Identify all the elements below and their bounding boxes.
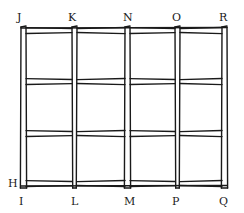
label-bottom-4: Q bbox=[219, 195, 228, 208]
rail-edge-top bbox=[130, 181, 175, 182]
label-top-0: J bbox=[16, 11, 21, 24]
post-cap-top bbox=[222, 26, 227, 27]
post-0 bbox=[20, 26, 26, 188]
post-cap-top bbox=[72, 26, 77, 27]
lattice-frame: J K N O R I L M P Q H bbox=[0, 0, 244, 213]
post-edge-right bbox=[130, 27, 131, 188]
lattice-diagram: J K N O R I L M P Q H bbox=[0, 0, 244, 213]
rail-edge-bottom bbox=[130, 33, 175, 34]
label-top-1: K bbox=[68, 11, 77, 24]
post-edge-left bbox=[175, 27, 176, 188]
label-bottom-1: L bbox=[71, 195, 79, 208]
post-2 bbox=[124, 26, 130, 188]
rail-edge-bottom bbox=[26, 84, 72, 85]
post-edge-right bbox=[179, 27, 180, 188]
label-bottom-3: P bbox=[172, 195, 180, 208]
post-edge-right bbox=[76, 27, 77, 188]
post-1 bbox=[72, 26, 77, 188]
label-bottom-2: M bbox=[124, 195, 135, 208]
rail-edge-bottom bbox=[130, 136, 175, 137]
label-top-4: R bbox=[219, 11, 228, 24]
post-edge-left bbox=[221, 27, 222, 188]
rail-edge-bottom bbox=[26, 33, 72, 34]
label-top-2: N bbox=[123, 11, 133, 24]
point-labels: J K N O R I L M P Q H bbox=[8, 11, 228, 208]
frame-top-edge bbox=[21, 28, 227, 29]
rail-1 bbox=[20, 79, 228, 85]
post-3 bbox=[175, 26, 180, 188]
post-edge-left bbox=[124, 27, 125, 188]
post-cap-top bbox=[125, 26, 130, 27]
vertical-posts bbox=[20, 26, 227, 188]
rail-edge-bottom bbox=[26, 136, 72, 137]
post-cap-top bbox=[175, 26, 180, 27]
post-4 bbox=[221, 26, 227, 188]
post-edge-left bbox=[72, 27, 73, 188]
rail-edge-top bbox=[130, 79, 175, 80]
rail-edge-top bbox=[130, 131, 175, 132]
label-bottom-0: I bbox=[19, 195, 23, 208]
post-edge-left bbox=[20, 27, 21, 188]
rail-edge-top bbox=[26, 131, 72, 132]
rail-edge-top bbox=[26, 181, 72, 182]
rail-edge-bottom bbox=[130, 84, 175, 85]
rail-edge-top bbox=[26, 79, 72, 80]
post-cap-top bbox=[21, 26, 26, 27]
post-edge-right bbox=[26, 27, 27, 188]
label-top-3: O bbox=[172, 11, 181, 24]
label-side-0: H bbox=[8, 177, 18, 190]
post-edge-right bbox=[227, 27, 228, 188]
